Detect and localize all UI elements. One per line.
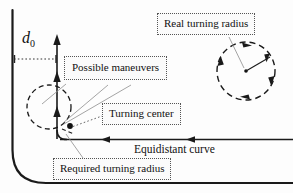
label-required-turning-radius-text: Required turning radius: [60, 163, 164, 174]
label-d0-distance: d0: [22, 29, 35, 49]
label-d0-subscript: 0: [30, 38, 35, 49]
maneuver-arrowhead-middle: [53, 71, 60, 82]
label-equidistant-curve-text: Equidistant curve: [134, 143, 215, 155]
equidistant-arrowhead-left-1: [101, 136, 110, 142]
required-circle-tangent-tick: [62, 129, 74, 134]
label-real-turning-radius-text: Real turning radius: [164, 18, 248, 29]
turning-center-dot: [67, 123, 73, 129]
real-circle-arrow-top: [242, 43, 252, 48]
label-equidistant-curve: Equidistant curve: [134, 143, 215, 155]
label-real-turning-radius[interactable]: Real turning radius: [157, 13, 255, 35]
label-d0-symbol: d: [22, 29, 30, 46]
maneuver-arrowhead-lower: [53, 106, 60, 117]
maneuver-arrowhead-top: [53, 34, 60, 45]
figure-turning-radius-diagram: Real turning radius Possible maneuvers T…: [0, 0, 293, 193]
equidistant-arrowhead-left-2: [186, 136, 195, 142]
path-corner-fillet: [57, 130, 67, 140]
real-circle-arrow-bottom: [240, 94, 250, 99]
leader-possible-maneuvers-1: [42, 84, 66, 104]
leader-required-turning-radius: [66, 134, 83, 158]
label-possible-maneuvers[interactable]: Possible maneuvers: [64, 56, 167, 80]
leader-turning-center: [73, 116, 102, 127]
label-required-turning-radius[interactable]: Required turning radius: [53, 158, 171, 180]
label-turning-center-text: Turning center: [109, 108, 174, 119]
label-possible-maneuvers-text: Possible maneuvers: [72, 62, 159, 73]
label-turning-center[interactable]: Turning center: [102, 103, 181, 125]
